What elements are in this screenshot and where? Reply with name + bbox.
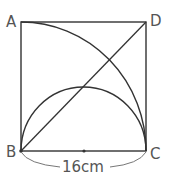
dimension-brace-left: [21, 152, 60, 167]
dimension-label-bc: 16cm: [61, 160, 105, 175]
vertex-label-a: A: [6, 15, 16, 30]
vertex-label-c: C: [150, 147, 160, 162]
vertex-label-d: D: [150, 14, 162, 29]
midpoint-dot: [82, 149, 85, 152]
semicircle-bc: [21, 87, 146, 151]
geometry-diagram: [0, 0, 169, 183]
dimension-brace-right: [110, 152, 146, 167]
vertex-label-b: B: [6, 145, 16, 160]
